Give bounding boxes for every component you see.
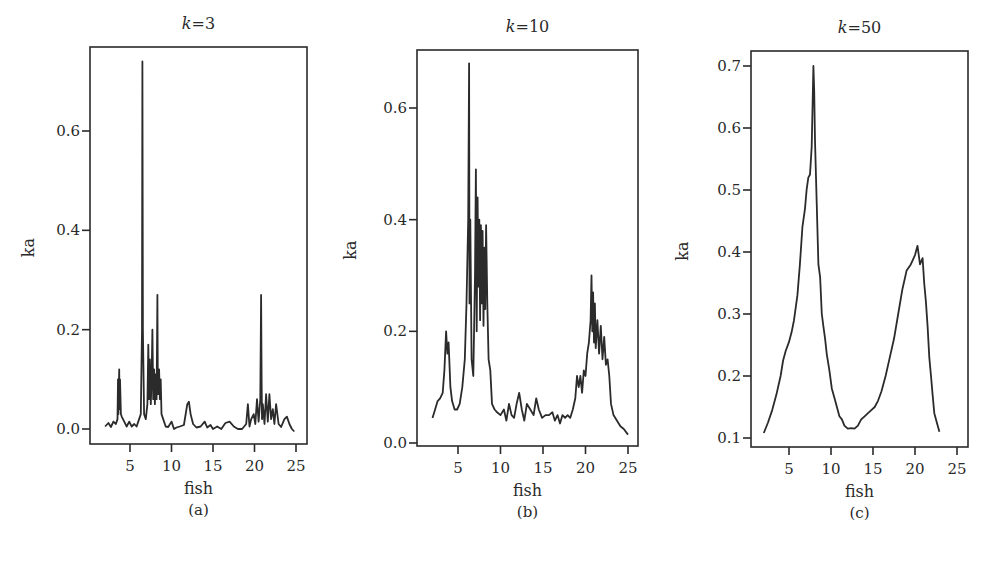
y-tick-label: 0.4: [717, 243, 741, 261]
y-tick-label: 0.7: [717, 57, 741, 75]
x-axis-label: fish: [845, 482, 874, 501]
x-tick-label: 25: [618, 459, 637, 477]
plot-frame: [90, 47, 307, 444]
panel-caption: (a): [188, 501, 209, 519]
title-value: 50: [861, 18, 881, 37]
y-tick-label: 0.6: [56, 122, 80, 140]
x-tick-label: 20: [905, 460, 924, 478]
plot-frame: [751, 51, 968, 447]
y-tick-label: 0.0: [383, 434, 407, 452]
series-line-a: [105, 62, 294, 432]
y-tick-label: 0.5: [717, 181, 741, 199]
y-axis-label: ka: [341, 240, 360, 260]
series-line-b: [433, 63, 629, 434]
title-equals: =: [847, 18, 860, 37]
y-tick-label: 0.4: [383, 211, 407, 229]
x-axis-label: fish: [513, 481, 542, 500]
x-tick-label: 15: [533, 459, 552, 477]
x-axis-label: fish: [184, 479, 213, 498]
y-axis-label: ka: [673, 241, 692, 261]
y-tick-label: 0.2: [717, 367, 741, 385]
x-tick-label: 15: [863, 460, 882, 478]
y-tick-label: 0.6: [717, 119, 741, 137]
title-value: 10: [529, 17, 549, 36]
y-tick-label: 0.4: [56, 221, 80, 239]
x-tick-label: 10: [821, 460, 840, 478]
x-tick-label: 10: [491, 459, 510, 477]
x-tick-label: 5: [125, 457, 135, 475]
panel-caption: (b): [517, 503, 538, 521]
y-tick-label: 0.1: [717, 429, 741, 447]
panel-title: k=50: [838, 18, 881, 37]
title-variable: k: [506, 17, 516, 36]
panel-c: k=505101520250.10.20.30.40.50.60.7fish(c…: [673, 18, 968, 522]
figure: k=35101520250.00.20.40.6fish(a)kak=10510…: [0, 0, 988, 564]
y-tick-label: 0.3: [717, 305, 741, 323]
title-variable: k: [182, 14, 192, 33]
y-axis-label: ka: [19, 237, 38, 257]
panel-a: k=35101520250.00.20.40.6fish(a)ka: [19, 14, 307, 519]
x-tick-label: 20: [245, 457, 264, 475]
series-line-c: [764, 66, 940, 433]
panel-caption: (c): [849, 504, 869, 522]
x-tick-label: 25: [947, 460, 966, 478]
title-equals: =: [515, 17, 528, 36]
panel-title: k=10: [506, 17, 549, 36]
x-tick-label: 20: [576, 459, 595, 477]
x-tick-label: 5: [453, 459, 463, 477]
panel-b: k=105101520250.00.20.40.6fish(b)ka: [341, 17, 638, 521]
y-tick-label: 0.0: [56, 420, 80, 438]
x-tick-label: 25: [286, 457, 305, 475]
title-equals: =: [192, 14, 205, 33]
x-tick-label: 5: [784, 460, 794, 478]
panel-title: k=3: [182, 14, 215, 33]
y-tick-label: 0.2: [383, 322, 407, 340]
x-tick-label: 15: [203, 457, 222, 475]
title-variable: k: [838, 18, 848, 37]
y-tick-label: 0.6: [383, 99, 407, 117]
y-tick-label: 0.2: [56, 321, 80, 339]
title-value: 3: [205, 14, 215, 33]
x-tick-label: 10: [162, 457, 181, 475]
